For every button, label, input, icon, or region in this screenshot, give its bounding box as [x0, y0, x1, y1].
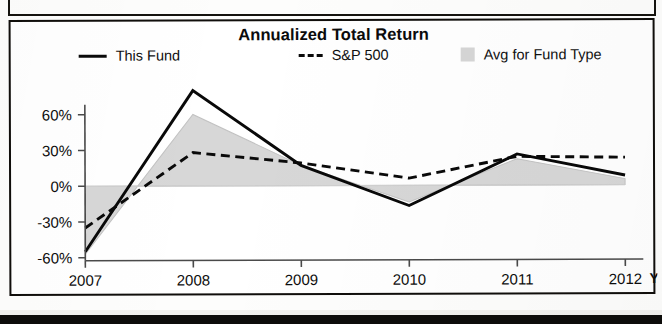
- y-tick-label: 30%: [42, 142, 72, 159]
- y-tick-label: -60%: [37, 249, 72, 266]
- x-axis-suffix-label: Y: [649, 270, 657, 286]
- x-tick-label: 2007: [69, 272, 102, 289]
- plot-area: 60%30%0%-30%-60% 20072008200920102011201…: [11, 20, 658, 298]
- y-tick-label: -30%: [37, 214, 72, 231]
- y-axis-tick-labels: 60%30%0%-30%-60%: [37, 106, 73, 266]
- top-partial-panel: [8, 0, 656, 16]
- y-tick-label: 0%: [50, 178, 72, 195]
- x-tick-label: 2008: [177, 271, 210, 288]
- x-tick-label: 2012: [609, 270, 642, 287]
- x-tick-label: 2011: [501, 270, 533, 287]
- series-avg-for-fund-type: [85, 113, 625, 254]
- line-chart-svg: 60%30%0%-30%-60% 20072008200920102011201…: [11, 20, 658, 298]
- x-axis-tick-labels: 200720082009201020112012Y: [69, 270, 658, 289]
- scan-dark-edge: [0, 315, 662, 324]
- chart-panel: Annualized Total Return This Fund S&P 50…: [9, 18, 656, 296]
- y-tick-label: 60%: [42, 106, 72, 123]
- x-tick-label: 2009: [285, 271, 318, 288]
- scanned-page: Annualized Total Return This Fund S&P 50…: [0, 0, 662, 324]
- x-tick-label: 2010: [393, 271, 426, 288]
